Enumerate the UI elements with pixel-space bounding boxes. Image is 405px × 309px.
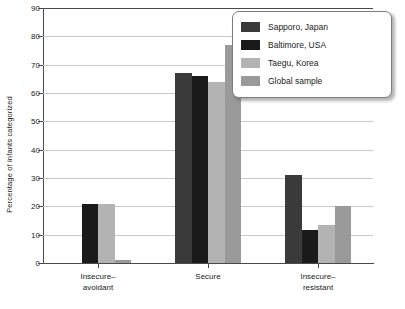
y-axis-tick-mark [38, 235, 43, 236]
x-axis-tick-label: Secure [195, 271, 220, 282]
legend-item-label: Baltimore, USA [268, 40, 326, 50]
bar [318, 225, 335, 263]
y-axis-tick-mark [38, 93, 43, 94]
y-axis-tick-mark [38, 65, 43, 66]
y-axis-tick-label: 90 [0, 4, 40, 13]
legend-item[interactable]: Sapporo, Japan [241, 18, 383, 36]
legend-item-label: Taegu, Korea [268, 58, 319, 68]
bar [208, 82, 225, 263]
y-axis-tick-mark [38, 121, 43, 122]
y-axis-title-label: Percentage of infants categorized [5, 96, 14, 213]
y-axis-tick-label: 10 [0, 230, 40, 239]
y-axis-tick-label: 30 [0, 174, 40, 183]
bar [82, 204, 99, 264]
x-axis-tick-label: Insecure– avoidant [80, 271, 115, 293]
y-axis-tick-mark [38, 150, 43, 151]
legend-item-label: Sapporo, Japan [268, 22, 328, 32]
y-axis-tick-mark [38, 36, 43, 37]
legend-swatch-icon [241, 22, 260, 32]
bar-chart: Percentage of infants categorized 010203… [0, 0, 405, 309]
y-axis-tick-label: 0 [0, 259, 40, 268]
y-axis-tick-mark [38, 206, 43, 207]
bar [192, 76, 209, 263]
legend-swatch-icon [241, 58, 260, 68]
y-axis-tick-label: 50 [0, 117, 40, 126]
bar [285, 175, 302, 263]
y-axis-tick-label: 20 [0, 202, 40, 211]
bar [175, 73, 192, 263]
legend-item[interactable]: Global sample [241, 72, 383, 90]
x-axis-tick-label: Insecure– resistant [300, 271, 335, 293]
bar [335, 206, 352, 263]
legend: Sapporo, JapanBaltimore, USATaegu, Korea… [232, 11, 392, 98]
x-axis-tick-mark [98, 263, 99, 268]
legend-item[interactable]: Taegu, Korea [241, 54, 383, 72]
y-axis-tick-mark [38, 8, 43, 9]
y-axis-tick-mark [38, 178, 43, 179]
y-axis-tick-label: 40 [0, 145, 40, 154]
x-axis-tick-mark [318, 263, 319, 268]
bar-group [65, 8, 131, 263]
legend-swatch-icon [241, 40, 260, 50]
legend-item[interactable]: Baltimore, USA [241, 36, 383, 54]
x-axis-tick-mark [208, 263, 209, 268]
y-axis-tick-label: 70 [0, 60, 40, 69]
bar [98, 204, 115, 264]
legend-item-label: Global sample [268, 76, 322, 86]
y-axis-tick-label: 60 [0, 89, 40, 98]
legend-swatch-icon [241, 76, 260, 86]
bar [302, 230, 319, 263]
y-axis-tick-label: 80 [0, 32, 40, 41]
